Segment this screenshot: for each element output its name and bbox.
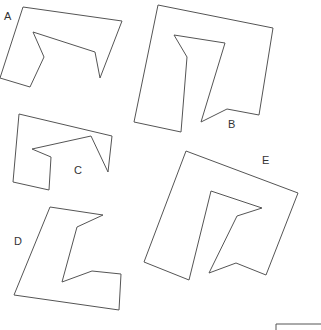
- diagram-canvas: ABCDE: [0, 0, 321, 330]
- shape-label-a: A: [4, 10, 12, 22]
- shape-label-c: C: [74, 164, 82, 176]
- shape-label-e: E: [262, 154, 269, 166]
- shape-e: [144, 151, 298, 280]
- labels-layer: ABCDE: [4, 10, 269, 247]
- shape-d: [14, 207, 121, 310]
- shape-b: [134, 5, 273, 132]
- shapes-layer: [0, 5, 298, 310]
- corner-frame-mark: [276, 324, 321, 330]
- shape-label-d: D: [14, 235, 22, 247]
- shape-a: [0, 7, 122, 87]
- shape-c: [13, 114, 112, 190]
- shape-label-b: B: [228, 118, 235, 130]
